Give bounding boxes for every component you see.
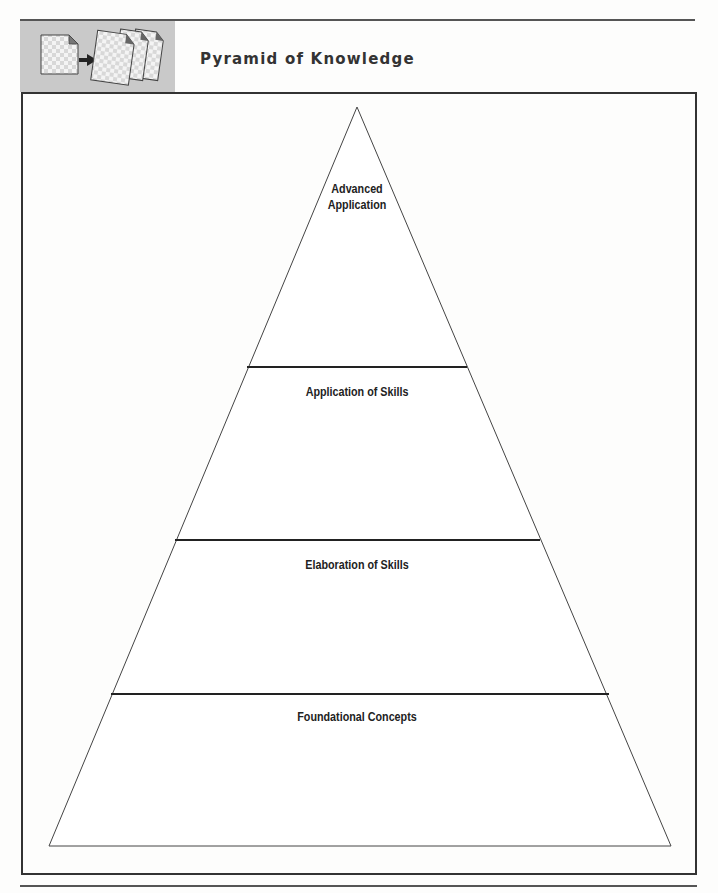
level-top-line1: Advanced [271, 181, 443, 197]
level-elaboration-of-skills-label: Elaboration of Skills [271, 557, 443, 573]
level-application-of-skills-label: Application of Skills [271, 384, 443, 400]
pyramid-outline [49, 107, 671, 846]
level-foundational-concepts-label: Foundational Concepts [271, 709, 443, 725]
pyramid-diagram [0, 0, 718, 893]
level-top-line2: Application [271, 197, 443, 213]
level-advanced-application-label: Advanced Application [271, 181, 443, 213]
bottom-rule [20, 885, 697, 887]
